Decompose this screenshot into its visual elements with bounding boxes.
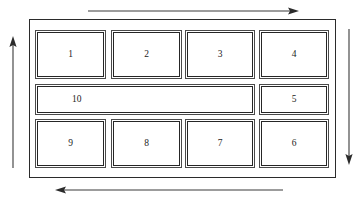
cell-5-label: 5 bbox=[292, 95, 297, 105]
arrow-left-upward bbox=[8, 36, 18, 168]
cell-7-label: 7 bbox=[218, 139, 223, 149]
cell-6-label: 6 bbox=[292, 139, 297, 149]
cell-6[interactable]: 6 bbox=[261, 121, 327, 166]
cell-10[interactable]: 10 bbox=[37, 86, 253, 113]
arrow-top-rightward bbox=[88, 6, 300, 16]
cell-5[interactable]: 5 bbox=[261, 86, 327, 113]
cell-3[interactable]: 3 bbox=[187, 32, 253, 77]
cell-2-label: 2 bbox=[144, 50, 149, 60]
cell-8-label: 8 bbox=[144, 139, 149, 149]
cell-9-label: 9 bbox=[68, 139, 73, 149]
arrow-right-downward bbox=[344, 29, 354, 165]
cell-1[interactable]: 1 bbox=[37, 32, 104, 77]
diagram-canvas: 1 2 3 4 10 5 9 8 7 6 bbox=[0, 0, 362, 204]
arrow-bottom-leftward bbox=[55, 185, 283, 195]
cell-1-label: 1 bbox=[68, 50, 73, 60]
cell-8[interactable]: 8 bbox=[113, 121, 180, 166]
cell-4[interactable]: 4 bbox=[261, 32, 327, 77]
cell-9[interactable]: 9 bbox=[37, 121, 104, 166]
cell-10-label: 10 bbox=[72, 95, 82, 105]
cell-3-label: 3 bbox=[218, 50, 223, 60]
cell-2[interactable]: 2 bbox=[113, 32, 180, 77]
cell-4-label: 4 bbox=[292, 50, 297, 60]
cell-7[interactable]: 7 bbox=[187, 121, 253, 166]
